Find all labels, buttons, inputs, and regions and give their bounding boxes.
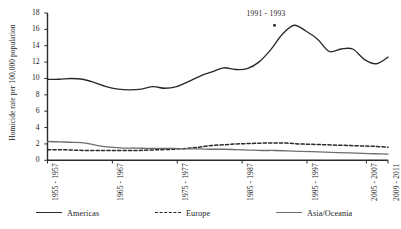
y-axis-tick-label: 0 xyxy=(24,155,40,164)
legend-line-icon-americas xyxy=(36,208,62,218)
x-axis-tick-label: 1975 - 1977 xyxy=(181,163,190,201)
x-axis-tick-label: 1955 - 1957 xyxy=(51,163,60,201)
peak-marker xyxy=(273,24,276,27)
peak-annotation-label: 1991 - 1993 xyxy=(247,9,286,18)
legend-line-icon-asia-oceania xyxy=(276,208,302,218)
legend-item-europe: Europe xyxy=(155,205,210,221)
y-axis-tick-label: 6 xyxy=(24,106,40,115)
y-axis-tick-label: 2 xyxy=(24,139,40,148)
peak-dot-icon xyxy=(273,24,276,27)
y-axis-tick-label: 14 xyxy=(24,41,40,50)
y-axis-tick-label: 18 xyxy=(24,8,40,17)
x-axis-tick-label: 1985 - 1987 xyxy=(246,163,255,201)
legend-item-americas: Americas xyxy=(36,205,99,221)
chart-legend: Americas Europe Asia/Oceania xyxy=(36,205,388,221)
legend-line-icon-europe xyxy=(155,208,181,218)
legend-label-asia-oceania: Asia/Oceania xyxy=(307,209,352,218)
x-axis-tick-label: 2005 - 2007 xyxy=(370,163,379,201)
y-axis-tick-label: 12 xyxy=(24,57,40,66)
x-axis-tick-label: 1965 - 1967 xyxy=(116,163,125,201)
legend-item-asia-oceania: Asia/Oceania xyxy=(276,205,352,221)
legend-label-americas: Americas xyxy=(67,209,99,218)
y-axis-tick-label: 10 xyxy=(24,73,40,82)
series-line-asia-oceania xyxy=(48,141,389,154)
y-axis-tick-label: 4 xyxy=(24,123,40,132)
x-axis-tick-label: 2009 - 2011 xyxy=(392,164,401,202)
data-series-layer xyxy=(48,25,389,154)
x-axis-tick-label: 1995 - 1997 xyxy=(311,163,320,201)
series-line-americas xyxy=(48,25,389,90)
legend-label-europe: Europe xyxy=(186,209,210,218)
y-axis-tick-label: 16 xyxy=(24,24,40,33)
y-axis-tick-label: 8 xyxy=(24,90,40,99)
